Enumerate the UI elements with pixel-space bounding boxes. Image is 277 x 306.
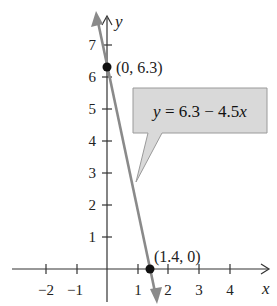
x-axis: −2 −1 1 2 3 4 x <box>12 264 270 298</box>
series-line <box>91 11 162 304</box>
line-chart: −2 −1 1 2 3 4 x 1 2 3 4 5 6 7 y y = 6.3 … <box>0 0 277 306</box>
y-tick-label: 4 <box>89 133 97 149</box>
x-axis-label: x <box>261 279 270 298</box>
y-axis-label: y <box>113 12 123 31</box>
point-x-intercept <box>146 265 155 274</box>
x-tick-label: −1 <box>67 282 83 298</box>
equation-label: y = 6.3 − 4.5x <box>151 102 247 121</box>
y-tick-label: 6 <box>89 69 97 85</box>
x-tick-label: 4 <box>226 282 234 298</box>
line-arrow-down-icon <box>150 287 162 304</box>
x-tick-label: −2 <box>38 282 54 298</box>
x-tick-label: 3 <box>195 282 203 298</box>
x-tick-label: 1 <box>134 282 142 298</box>
y-tick-label: 5 <box>89 101 97 117</box>
equation-callout: y = 6.3 − 4.5x <box>133 88 267 182</box>
point-label: (1.4, 0) <box>154 248 201 266</box>
x-tick-label: 2 <box>164 282 172 298</box>
y-tick-label: 7 <box>89 37 97 53</box>
point-label: (0, 6.3) <box>116 59 163 77</box>
y-tick-label: 1 <box>89 229 97 245</box>
y-tick-label: 3 <box>89 165 97 181</box>
line-arrow-up-icon <box>91 11 103 27</box>
y-tick-label: 2 <box>89 197 97 213</box>
point-y-intercept <box>103 63 112 72</box>
